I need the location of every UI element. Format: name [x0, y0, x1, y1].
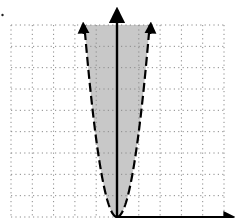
parabola-inequality-plot [0, 0, 235, 218]
corner-dot [1, 14, 3, 16]
